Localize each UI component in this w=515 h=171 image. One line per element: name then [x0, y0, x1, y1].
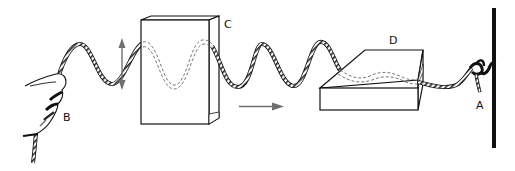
rope-wave-left — [58, 43, 143, 84]
rope-wave-middle — [212, 42, 340, 87]
oscillation-arrow — [119, 38, 126, 90]
label-b: B — [63, 111, 71, 124]
polarization-rope-diagram: B C D A — [0, 0, 515, 171]
wall — [492, 8, 496, 148]
knot — [470, 60, 495, 92]
vertical-slit-box — [141, 16, 219, 124]
hand — [23, 74, 66, 136]
label-c: C — [224, 18, 232, 31]
rope-tail — [33, 133, 36, 163]
label-a: A — [476, 99, 484, 112]
label-d: D — [389, 34, 397, 47]
propagation-arrow — [239, 103, 284, 111]
rope-right — [418, 68, 472, 87]
